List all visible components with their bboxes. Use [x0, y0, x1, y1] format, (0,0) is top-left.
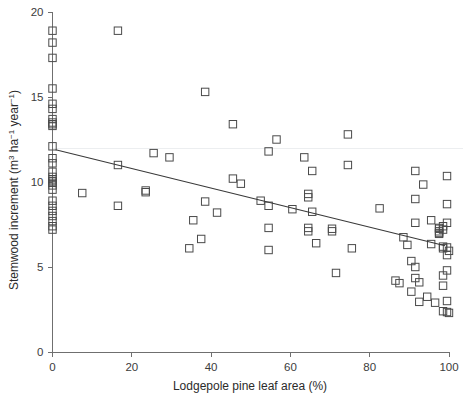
data-point-marker: [344, 131, 351, 138]
data-point-marker: [114, 202, 121, 209]
y-tick-label: 5: [37, 261, 43, 273]
x-tick-label: 20: [125, 361, 138, 373]
data-point-marker: [412, 167, 419, 174]
data-point-marker: [197, 235, 204, 242]
data-point-marker: [142, 189, 149, 196]
data-point-marker: [404, 241, 411, 248]
data-point-marker: [443, 251, 450, 258]
data-point-marker: [420, 181, 427, 188]
x-tick-label: 60: [284, 361, 297, 373]
data-point-marker: [328, 225, 335, 232]
data-point-marker: [332, 269, 339, 276]
data-point-marker: [412, 195, 419, 202]
regression-line-group: [56, 150, 445, 246]
data-point-marker: [265, 224, 272, 231]
data-point-marker: [427, 217, 434, 224]
y-tick-label: 15: [31, 91, 44, 103]
y-axis-title-prefix: Stemwood increment (m: [7, 160, 21, 290]
data-point-marker: [213, 209, 220, 216]
data-point-marker: [439, 282, 446, 289]
y-tick-label-group: 05101520: [31, 6, 44, 358]
y-axis-title-mid: ha: [7, 139, 21, 156]
data-point-marker: [344, 161, 351, 168]
y-tick-label: 20: [31, 6, 44, 18]
data-point-marker: [309, 167, 316, 174]
data-point-marker: [201, 198, 208, 205]
data-point-marker: [142, 187, 149, 194]
data-point-group: [49, 27, 453, 317]
data-point-marker: [376, 205, 383, 212]
data-point-marker: [312, 240, 319, 247]
data-point-marker: [229, 121, 236, 128]
x-tick-label: 100: [439, 361, 458, 373]
x-tick-label: 0: [49, 361, 55, 373]
data-point-marker: [431, 299, 438, 306]
data-point-marker: [265, 246, 272, 253]
x-tick-label: 40: [205, 361, 218, 373]
axis-group: [53, 12, 450, 353]
data-point-marker: [309, 208, 316, 215]
data-point-marker: [412, 219, 419, 226]
data-point-marker: [348, 245, 355, 252]
y-tick-label: 10: [31, 176, 44, 188]
y-axis-title: Stemwood increment (m3 ha−1 year−1): [7, 90, 22, 290]
data-point-marker: [443, 172, 450, 179]
data-point-marker: [443, 297, 450, 304]
data-point-marker: [79, 189, 86, 196]
y-axis-title-mid2: year: [7, 103, 21, 130]
x-tick-label-group: 020406080100: [49, 361, 458, 373]
plot-canvas: 020406080100 05101520 Lodgepole pine lea…: [0, 0, 465, 405]
data-point-marker: [150, 149, 157, 156]
data-point-marker: [237, 180, 244, 187]
x-axis-title: Lodgepole pine leaf area (%): [173, 379, 327, 393]
data-point-marker: [416, 298, 423, 305]
data-point-marker: [166, 154, 173, 161]
data-point-marker: [273, 136, 280, 143]
y-tick-label: 0: [37, 346, 43, 358]
data-point-marker: [190, 217, 197, 224]
scatter-plot-figure: 020406080100 05101520 Lodgepole pine lea…: [0, 0, 465, 405]
data-point-marker: [201, 88, 208, 95]
y-axis-title-suffix: ): [7, 90, 21, 94]
data-point-marker: [328, 228, 335, 235]
data-point-marker: [229, 175, 236, 182]
data-point-marker: [408, 288, 415, 295]
x-tick-label: 80: [363, 361, 376, 373]
data-point-marker: [301, 154, 308, 161]
data-point-marker: [423, 293, 430, 300]
regression-line: [56, 150, 445, 246]
data-point-marker: [114, 27, 121, 34]
data-point-marker: [443, 200, 450, 207]
data-point-marker: [186, 245, 193, 252]
